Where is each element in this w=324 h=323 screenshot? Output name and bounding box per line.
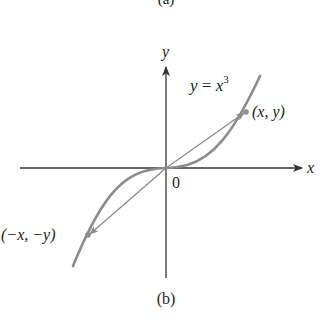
previous-figure-caption: (a) <box>158 0 175 8</box>
equation-equals: = <box>198 76 216 95</box>
negative-point-marker <box>85 232 91 238</box>
positive-point-label: (x, y) <box>252 103 285 121</box>
figure-caption: (b) <box>157 290 176 308</box>
chord-to-positive-point <box>166 113 244 168</box>
negative-point-label: (−x, −y) <box>1 226 55 244</box>
y-axis-label: y <box>160 43 170 61</box>
curve-equation-label: y = x3 <box>188 73 229 95</box>
origin-label: 0 <box>172 174 180 191</box>
diagram-canvas: (a) x y 0 y = x3 (x, y) (−x, −y) (b) <box>0 0 324 323</box>
x-axis-label: x <box>306 159 314 176</box>
cubic-function-diagram: (a) x y 0 y = x3 (x, y) (−x, −y) (b) <box>0 0 324 323</box>
equation-lhs: y <box>188 76 198 95</box>
positive-point-marker <box>243 109 249 115</box>
equation-exponent: 3 <box>223 73 229 85</box>
